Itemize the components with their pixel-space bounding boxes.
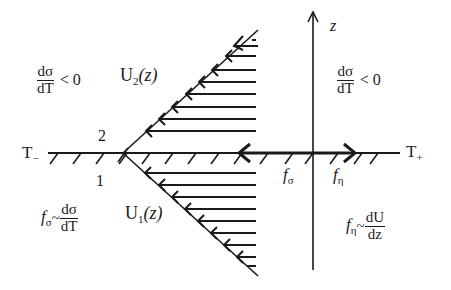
t-minus-label: T− <box>22 144 39 161</box>
inequality: < 0 <box>60 71 81 88</box>
inequality: < 0 <box>360 71 381 88</box>
force-subscript: σ <box>288 174 294 186</box>
t-plus-subscript: + <box>416 151 422 163</box>
lower-right-fraction: dU dz <box>365 210 385 243</box>
lower-right-relation: fη~ dU dz <box>346 210 385 243</box>
t-minus-subscript: − <box>32 152 38 164</box>
fraction-numerator: dσ <box>337 64 355 81</box>
lower-profile-label: U1(z) <box>125 204 163 222</box>
upper-profile-label: U2(z) <box>120 66 158 84</box>
t-plus-label: T+ <box>406 143 423 160</box>
diagram-canvas: T− T+ z 2 1 dσ dT < 0 dσ dT < 0 U2(z) U1… <box>0 0 451 290</box>
diagram-drawing <box>0 0 451 290</box>
proportional-tilde: ~ <box>357 218 365 234</box>
t-axis-hatching <box>50 153 378 164</box>
force-subscript: η <box>338 174 344 186</box>
point-2-label: 2 <box>98 128 106 144</box>
fraction-numerator: dσ <box>37 64 55 81</box>
fraction-denominator: dz <box>367 227 383 243</box>
lower-left-relation: fσ~ dσ dT <box>41 202 78 235</box>
upper-velocity-profile <box>146 36 258 137</box>
f-sigma-label: fσ <box>283 166 294 183</box>
proportional-tilde: ~ <box>52 210 60 226</box>
upper-right-fraction: dσ dT <box>336 64 355 97</box>
fraction-numerator: dU <box>365 210 385 227</box>
fraction-denominator: dT <box>60 219 79 235</box>
t-minus-letter: T <box>22 143 32 162</box>
t-plus-letter: T <box>406 142 416 161</box>
profile-name: U <box>120 65 133 85</box>
profile-subscript: 1 <box>138 213 144 225</box>
profile-subscript: 2 <box>133 75 139 87</box>
lower-left-fraction: dσ dT <box>60 202 79 235</box>
profile-argument: (z) <box>139 65 158 85</box>
upper-right-condition: dσ dT < 0 <box>336 64 381 97</box>
fraction-denominator: dT <box>36 81 55 97</box>
force-subscript: σ <box>46 216 52 228</box>
fraction-numerator: dσ <box>60 202 78 219</box>
fraction-denominator: dT <box>336 81 355 97</box>
heat-flux-double-arrow <box>239 144 355 162</box>
force-subscript: η <box>351 224 357 236</box>
upper-left-fraction: dσ dT <box>36 64 55 97</box>
profile-name: U <box>125 203 138 223</box>
point-1-label: 1 <box>96 173 104 189</box>
upper-left-condition: dσ dT < 0 <box>36 64 81 97</box>
z-axis-label: z <box>330 18 336 34</box>
f-eta-label: fη <box>333 166 344 183</box>
profile-argument: (z) <box>144 203 163 223</box>
